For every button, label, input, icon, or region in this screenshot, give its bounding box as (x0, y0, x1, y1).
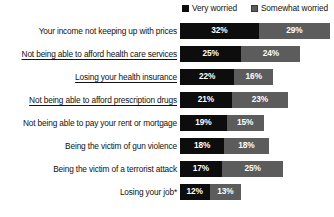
bar-segment-somewhat-worried: 29% (259, 23, 330, 39)
bar-cell: 18%18% (180, 138, 334, 154)
bar-value-very-worried: 22% (199, 72, 215, 81)
legend-label-very-worried: Very worried (192, 4, 237, 13)
row-label-cell: Losing your job* (0, 187, 180, 197)
stacked-bar: 12%13% (180, 184, 241, 200)
row-label: Losing your health insurance (75, 72, 177, 82)
row-label-cell: Being the victim of a terrorist attack (0, 164, 180, 174)
legend-item-very-worried: Very worried (182, 4, 237, 13)
chart-row: Your income not keeping up with prices32… (0, 19, 334, 42)
bar-value-somewhat-worried: 15% (237, 118, 253, 127)
chart-row: Not being able to afford health care ser… (0, 42, 334, 65)
legend-swatch-icon-very-worried (182, 5, 189, 12)
bar-segment-somewhat-worried: 16% (234, 69, 273, 85)
row-label-cell: Being the victim of gun violence (0, 141, 180, 151)
bar-cell: 22%16% (180, 69, 334, 85)
bar-cell: 19%15% (180, 115, 334, 131)
chart-row: Not being able to pay your rent or mortg… (0, 111, 334, 134)
bar-value-very-worried: 25% (203, 49, 219, 58)
stacked-bar: 22%16% (180, 69, 273, 85)
bar-value-somewhat-worried: 18% (238, 141, 254, 150)
stacked-bar-chart: Very worried Somewhat worried Your incom… (0, 0, 334, 217)
chart-row: Losing your job*12%13% (0, 180, 334, 203)
chart-row: Being the victim of a terrorist attack17… (0, 157, 334, 180)
bar-value-somewhat-worried: 23% (252, 95, 268, 104)
bar-segment-very-worried: 17% (180, 161, 222, 177)
chart-rows: Your income not keeping up with prices32… (0, 19, 334, 203)
bar-value-very-worried: 18% (194, 141, 210, 150)
bar-cell: 12%13% (180, 184, 334, 200)
bar-value-somewhat-worried: 13% (217, 187, 233, 196)
stacked-bar: 21%23% (180, 92, 288, 108)
bar-segment-very-worried: 32% (180, 23, 259, 39)
bar-segment-very-worried: 21% (180, 92, 232, 108)
bar-segment-somewhat-worried: 25% (222, 161, 283, 177)
row-label-cell: Not being able to afford prescription dr… (0, 95, 180, 105)
stacked-bar: 25%24% (180, 46, 300, 62)
bar-segment-very-worried: 12% (180, 184, 210, 200)
bar-segment-somewhat-worried: 24% (241, 46, 300, 62)
bar-value-very-worried: 17% (193, 164, 209, 173)
row-label: Not being able to afford prescription dr… (29, 95, 177, 105)
bar-value-very-worried: 19% (195, 118, 211, 127)
row-label-cell: Not being able to afford health care ser… (0, 49, 180, 59)
stacked-bar: 18%18% (180, 138, 269, 154)
bar-cell: 21%23% (180, 92, 334, 108)
bar-segment-somewhat-worried: 13% (210, 184, 242, 200)
stacked-bar: 19%15% (180, 115, 264, 131)
chart-row: Being the victim of gun violence18%18% (0, 134, 334, 157)
row-label-cell: Losing your health insurance (0, 72, 180, 82)
bar-segment-somewhat-worried: 23% (232, 92, 289, 108)
bar-cell: 32%29% (180, 23, 334, 39)
chart-row: Not being able to afford prescription dr… (0, 88, 334, 111)
bar-value-somewhat-worried: 25% (244, 164, 260, 173)
chart-legend: Very worried Somewhat worried (182, 2, 332, 15)
bar-segment-very-worried: 22% (180, 69, 234, 85)
row-label: Your income not keeping up with prices (39, 26, 177, 36)
stacked-bar: 32%29% (180, 23, 330, 39)
bar-value-somewhat-worried: 29% (286, 26, 302, 35)
bar-value-very-worried: 21% (198, 95, 214, 104)
bar-segment-somewhat-worried: 15% (227, 115, 264, 131)
bar-cell: 17%25% (180, 161, 334, 177)
bar-value-very-worried: 12% (187, 187, 203, 196)
bar-segment-somewhat-worried: 18% (224, 138, 268, 154)
bar-segment-very-worried: 18% (180, 138, 224, 154)
legend-item-somewhat-worried: Somewhat worried (251, 4, 328, 13)
bar-segment-very-worried: 19% (180, 115, 227, 131)
bar-cell: 25%24% (180, 46, 334, 62)
stacked-bar: 17%25% (180, 161, 283, 177)
bar-value-very-worried: 32% (211, 26, 227, 35)
row-label: Being the victim of gun violence (65, 141, 177, 151)
row-label: Losing your job* (120, 187, 177, 197)
row-label-cell: Not being able to pay your rent or mortg… (0, 118, 180, 128)
row-label: Not being able to afford health care ser… (22, 49, 177, 59)
legend-label-somewhat-worried: Somewhat worried (261, 4, 328, 13)
bar-segment-very-worried: 25% (180, 46, 241, 62)
legend-swatch-icon-somewhat-worried (251, 5, 258, 12)
bar-value-somewhat-worried: 24% (263, 49, 279, 58)
row-label: Being the victim of a terrorist attack (53, 164, 177, 174)
row-label: Not being able to pay your rent or mortg… (23, 118, 177, 128)
row-label-cell: Your income not keeping up with prices (0, 26, 180, 36)
bar-value-somewhat-worried: 16% (246, 72, 262, 81)
chart-row: Losing your health insurance22%16% (0, 65, 334, 88)
